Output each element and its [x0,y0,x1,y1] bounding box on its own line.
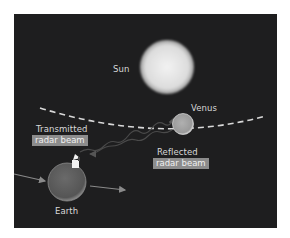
reflected-label-line1: Reflected [157,147,198,157]
transmitted-label-line2: radar beam [32,135,88,146]
earth-incoming-arrow [14,174,45,181]
earth-outgoing-arrow [90,186,125,190]
sun-label: Sun [113,64,129,74]
venus-label: Venus [191,103,217,113]
radar-dish-icon [72,154,80,168]
diagram-canvas [0,0,290,238]
transmitted-label-line1: Transmitted [36,124,88,134]
venus [173,114,194,135]
earth [48,163,86,201]
reflected-label-line2: radar beam [153,158,209,169]
sun [140,40,194,94]
earth-label: Earth [55,206,78,216]
